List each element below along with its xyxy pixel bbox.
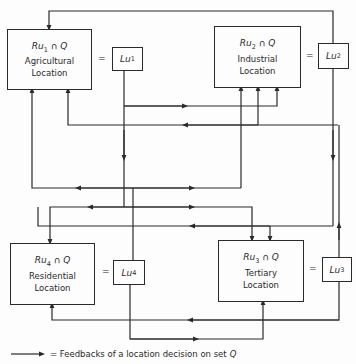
node-label-line1: Residential — [29, 270, 76, 282]
lu-sub: 1 — [131, 55, 135, 63]
formula-prefix: Ru — [243, 252, 255, 262]
lu3-box: Lu3 — [322, 257, 352, 282]
formula-prefix: Ru — [35, 255, 47, 265]
formula-suffix: ∩ Q — [259, 252, 278, 262]
node-formula: Ru2 ∩ Q — [240, 37, 276, 53]
equals-sign: = — [306, 50, 314, 60]
line-lu2-to-ru1-b — [68, 90, 338, 125]
formula-suffix: ∩ Q — [256, 38, 275, 48]
node-label-line2: Location — [240, 65, 276, 77]
lu-sub: 4 — [132, 269, 136, 277]
equals-sign: = — [309, 263, 317, 273]
node-residential-location: Ru4 ∩ Q Residential Location — [10, 243, 95, 305]
lu1-box: Lu1 — [112, 47, 143, 71]
node-agricultural-location: Ru1 ∩ Q Agricultural Location — [7, 29, 92, 90]
node-formula: Ru1 ∩ Q — [32, 40, 68, 56]
lu4-box: Lu4 — [113, 260, 145, 285]
legend-set-symbol: Q — [230, 349, 237, 359]
legend: = Feedbacks of a location decision on se… — [50, 349, 236, 359]
lu-sub: 3 — [340, 266, 344, 274]
formula-prefix: Ru — [240, 38, 252, 48]
node-formula: Ru4 ∩ Q — [35, 254, 71, 270]
feedback-diagram: Ru1 ∩ Q Agricultural Location = Lu1 Ru2 … — [0, 0, 356, 364]
lu2-box: Lu2 — [318, 43, 349, 69]
legend-text: = Feedbacks of a location decision on se… — [50, 349, 227, 359]
node-tertiary-location: Ru3 ∩ Q Tertiary Location — [218, 240, 304, 302]
lu-prefix: Lu — [120, 54, 131, 64]
line-lu2-to-left — [38, 207, 333, 226]
node-industrial-location: Ru2 ∩ Q Industrial Location — [214, 26, 301, 88]
node-label-line2: Location — [243, 279, 279, 291]
node-label-line1: Industrial — [238, 53, 278, 65]
line-lu1-to-ru2 — [124, 88, 277, 106]
line-to-ru3-a — [124, 207, 252, 239]
line-to-ru4 — [50, 207, 124, 242]
formula-suffix: ∩ Q — [48, 41, 67, 51]
equals-sign: = — [98, 53, 106, 63]
node-label-line2: Location — [32, 67, 68, 79]
formula-prefix: Ru — [32, 41, 44, 51]
lu-prefix: Lu — [326, 51, 337, 61]
lu-sub: 2 — [337, 52, 341, 60]
lu-prefix: Lu — [330, 265, 341, 275]
lu-prefix: Lu — [122, 268, 133, 278]
equals-sign: = — [102, 266, 110, 276]
node-label-line1: Agricultural — [25, 55, 74, 67]
node-formula: Ru3 ∩ Q — [243, 251, 279, 267]
node-label-line1: Tertiary — [245, 267, 277, 279]
line-to-ru1-left — [32, 90, 241, 188]
node-label-line2: Location — [35, 282, 71, 294]
formula-suffix: ∩ Q — [51, 255, 70, 265]
